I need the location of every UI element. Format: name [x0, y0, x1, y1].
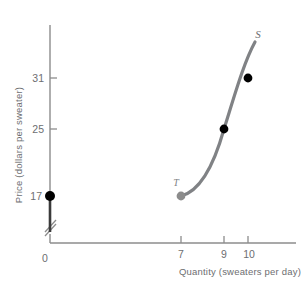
point-marker-t: [177, 192, 186, 201]
x-axis-label: Quantity (sweaters per day): [179, 266, 301, 277]
x-tick-label-9: 9: [221, 248, 227, 260]
point-marker-axis-17: [45, 191, 55, 201]
y-tick-label-17: 17: [30, 190, 42, 202]
y-axis-label: Price (dollars per sweater): [13, 87, 24, 203]
chart-canvas: 31 25 17 0 7 9 10 Quantity (sweaters per…: [0, 0, 306, 290]
point-marker-10-31: [244, 74, 253, 83]
point-t-label: T: [173, 177, 180, 188]
axes-group: [50, 25, 296, 243]
y-axis-ticks: [50, 78, 57, 129]
supply-curve-label: S: [255, 28, 261, 40]
y-tick-label-31: 31: [32, 72, 44, 84]
x-axis-ticks: [181, 236, 248, 243]
x-tick-label-7: 7: [178, 248, 184, 260]
y-tick-label-25: 25: [32, 123, 44, 135]
point-marker-9-25: [220, 125, 229, 134]
supply-curve: [181, 42, 255, 196]
x-tick-label-10: 10: [243, 248, 255, 260]
supply-curve-chart: 31 25 17 0 7 9 10 Quantity (sweaters per…: [0, 0, 306, 290]
origin-label: 0: [42, 252, 48, 264]
